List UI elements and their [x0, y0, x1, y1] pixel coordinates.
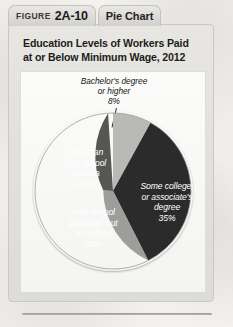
- figure-title: Education Levels of Workers Paid at or B…: [23, 37, 205, 64]
- slice-percent: 28%: [45, 179, 125, 190]
- figure-number: 2A-10: [55, 9, 88, 23]
- callout-line-2: or higher: [45, 86, 183, 96]
- slice-percent: 35%: [125, 213, 206, 224]
- figure-kind-label: Pie Chart: [106, 10, 153, 22]
- callout-line-1: Bachelor's degree: [45, 76, 183, 86]
- slice-label-line-1: Some college,: [125, 181, 206, 192]
- slice-label-less-than-hs: Less than high school diploma 28%: [45, 147, 125, 189]
- figure-kind-tab: Pie Chart: [98, 5, 161, 26]
- slice-label-line-3: no college: [47, 228, 139, 239]
- figure-panel: Education Levels of Workers Paid at or B…: [8, 24, 214, 302]
- callout-bachelors-degree: Bachelor's degree or higher 8%: [45, 76, 183, 106]
- slice-label-line-2: high school: [45, 158, 125, 169]
- chart-plot-area: Bachelor's degree or higher 8%: [20, 71, 206, 293]
- slice-label-some-college: Some college, or associate's degree 35%: [125, 181, 206, 223]
- slice-label-line-2: or associate's: [125, 192, 206, 203]
- figure-label: FIGURE: [16, 11, 51, 21]
- slice-label-line-3: degree: [125, 202, 206, 213]
- figure-header-tabs: FIGURE 2A-10 Pie Chart: [8, 4, 214, 26]
- pie-chart: Less than high school diploma 28% High s…: [33, 111, 193, 271]
- figure-title-line-2: at or Below Minimum Wage, 2012: [23, 51, 205, 65]
- slice-percent: 30%: [47, 239, 139, 250]
- figure-number-tab: FIGURE 2A-10: [8, 5, 96, 26]
- callout-percent: 8%: [45, 96, 183, 106]
- slice-label-line-1: Less than: [45, 147, 125, 158]
- figure-title-line-1: Education Levels of Workers Paid: [23, 37, 205, 51]
- slice-label-line-3: diploma: [45, 168, 125, 179]
- bottom-divider: [22, 313, 212, 315]
